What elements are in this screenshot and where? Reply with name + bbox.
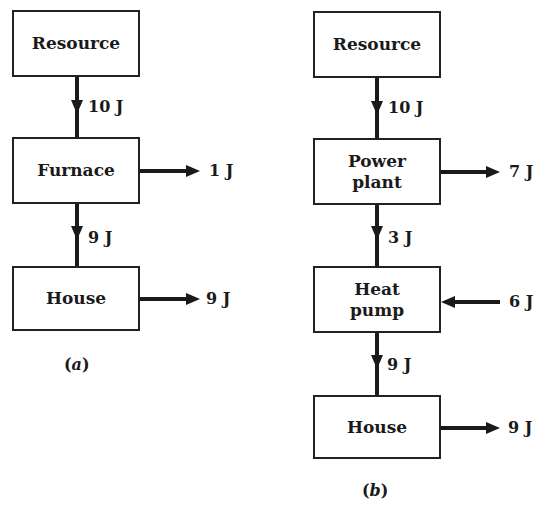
node-label: House xyxy=(347,417,407,438)
arrowhead-down-icon xyxy=(71,226,83,240)
flow-line-environment-to-heat-pump xyxy=(454,300,500,304)
node-heat-pump: Heat pump xyxy=(313,266,441,333)
node-furnace: Furnace xyxy=(12,137,140,204)
node-house-b: House xyxy=(313,395,441,459)
flow-label-heat-pump-to-house: 9 J xyxy=(387,355,411,374)
flow-label-house-out-b: 9 J xyxy=(508,418,532,437)
flow-label-house-out-a: 9 J xyxy=(206,289,230,308)
node-resource-a: Resource xyxy=(12,10,140,77)
arrowhead-right-icon xyxy=(186,293,200,305)
node-label: Furnace xyxy=(37,160,115,181)
node-label: Resource xyxy=(333,34,421,55)
flow-line-house-out-b xyxy=(441,426,490,430)
flow-line-furnace-loss xyxy=(140,169,190,173)
node-label-line1: Power xyxy=(348,151,406,172)
node-resource-b: Resource xyxy=(313,11,441,78)
arrowhead-down-icon xyxy=(371,226,383,240)
flow-label-resource-to-furnace-a: 10 J xyxy=(88,97,123,116)
arrowhead-right-icon xyxy=(486,166,500,178)
node-label-line2: pump xyxy=(350,300,404,321)
node-label-line2: plant xyxy=(352,172,402,193)
flow-line-house-out-a xyxy=(140,297,190,301)
node-label-line1: Heat xyxy=(354,279,400,300)
arrowhead-down-icon xyxy=(371,101,383,115)
arrowhead-right-icon xyxy=(486,422,500,434)
flow-label-resource-to-power-plant: 10 J xyxy=(388,98,423,117)
caption-b: (b) xyxy=(362,481,388,500)
arrowhead-down-icon xyxy=(71,100,83,114)
flow-label-furnace-loss: 1 J xyxy=(209,161,233,180)
node-house-a: House xyxy=(12,266,140,331)
flow-label-environment-to-heat-pump: 6 J xyxy=(509,292,533,311)
node-label: House xyxy=(46,288,106,309)
flow-label-power-plant-loss: 7 J xyxy=(509,162,533,181)
flow-line-power-plant-loss xyxy=(441,170,490,174)
arrowhead-left-icon xyxy=(441,296,455,308)
node-power-plant: Power plant xyxy=(313,138,441,205)
arrowhead-right-icon xyxy=(186,165,200,177)
arrowhead-down-icon xyxy=(371,355,383,369)
flow-label-power-plant-to-heat-pump: 3 J xyxy=(388,228,412,247)
caption-a: (a) xyxy=(64,355,90,374)
flow-label-furnace-to-house: 9 J xyxy=(88,228,112,247)
node-label: Resource xyxy=(32,33,120,54)
